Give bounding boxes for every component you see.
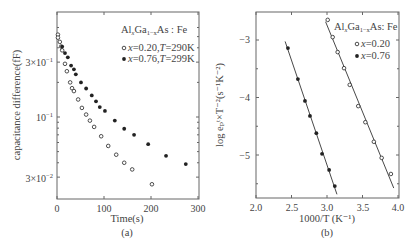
y-tick-label: 3×10−2 — [25, 172, 53, 184]
x-tick-label: 200 — [144, 203, 159, 214]
plot-frame-a — [57, 12, 199, 199]
open-circle-marker-icon — [65, 69, 69, 73]
legend-open-circle-icon — [355, 42, 359, 46]
panel-b: 2.0 2.5 3.0 3.5 4.0 −3 −4 −5 1000/T (K⁻¹… — [214, 12, 404, 239]
y-tick-labels-b: −3 −4 −5 — [239, 34, 250, 161]
open-circle-marker-icon — [331, 35, 335, 39]
legend-title-a: AlxGa1−xAs : Fe — [121, 24, 187, 36]
x-tick-label: 3.0 — [321, 202, 334, 213]
open-circle-marker-icon — [348, 83, 352, 87]
open-circle-marker-icon — [336, 50, 340, 54]
x-tick-labels-b: 2.0 2.5 3.0 3.5 4.0 — [250, 202, 405, 213]
filled-circle-marker-icon — [94, 99, 98, 103]
open-circle-marker-icon — [114, 153, 118, 157]
open-circle-marker-icon — [88, 119, 92, 123]
axis-ticks-a — [57, 12, 199, 199]
filled-circle-marker-icon — [296, 77, 300, 81]
legend-a: AlxGa1−xAs : Fe x=0.20,T=290K x=0.76,T=2… — [121, 24, 195, 64]
open-circle-marker-icon — [92, 125, 96, 129]
open-circle-marker-icon — [68, 81, 72, 85]
y-axis-label-a: capacitance difference(fF) — [11, 49, 23, 160]
filled-circle-marker-icon — [122, 127, 126, 131]
x-tick-label: 4.0 — [392, 202, 405, 213]
open-circle-marker-icon — [58, 40, 62, 44]
x-tick-label: 2.5 — [286, 202, 299, 213]
legend-entry-a-1: x=0.76,T=299K — [127, 53, 195, 64]
open-circle-marker-icon — [389, 172, 393, 176]
filled-circle-marker-icon — [327, 168, 331, 172]
figure: 0 100 200 300 3×10−1 10−1 3×10−2 Time(s)… — [0, 0, 412, 246]
open-circle-marker-icon — [342, 66, 346, 70]
open-circle-marker-icon — [130, 168, 134, 172]
open-circle-marker-icon — [372, 140, 376, 144]
open-circle-marker-icon — [380, 156, 384, 160]
legend-entry-a-0: x=0.20,T=290K — [127, 42, 195, 53]
open-circle-marker-icon — [72, 89, 76, 93]
filled-circle-marker-icon — [184, 162, 188, 166]
open-circle-marker-icon — [80, 106, 84, 110]
y-tick-label: −3 — [239, 34, 250, 45]
open-circle-marker-icon — [63, 62, 67, 66]
y-tick-labels-a: 3×10−1 10−1 3×10−2 — [25, 56, 53, 184]
panel-a: 0 100 200 300 3×10−1 10−1 3×10−2 Time(s)… — [11, 12, 206, 239]
open-circle-marker-icon — [364, 120, 368, 124]
x-tick-label: 300 — [191, 203, 206, 214]
x-tick-label: 2.0 — [250, 202, 263, 213]
y-tick-label: 3×10−1 — [25, 56, 53, 68]
filled-circle-marker-icon — [113, 119, 117, 123]
filled-circle-marker-icon — [286, 46, 290, 50]
panel-caption-b: (b) — [321, 227, 334, 239]
legend-entry-b-1: x=0.76 — [360, 50, 390, 61]
x-tick-label: 100 — [97, 203, 112, 214]
y-tick-label: −4 — [239, 92, 250, 103]
filled-circle-marker-icon — [320, 152, 324, 156]
filled-circle-marker-icon — [146, 142, 150, 146]
filled-circle-marker-icon — [314, 131, 318, 135]
open-circle-marker-icon — [106, 144, 110, 148]
x-tick-label: 3.5 — [357, 202, 370, 213]
filled-circle-marker-icon — [69, 64, 73, 68]
open-circle-marker-icon — [326, 18, 330, 22]
panel-caption-a: (a) — [121, 227, 133, 239]
open-circle-marker-icon — [76, 98, 80, 102]
filled-circle-marker-icon — [74, 72, 78, 76]
open-circle-marker-icon — [56, 36, 60, 40]
y-tick-label: 10−1 — [36, 111, 53, 123]
legend-open-circle-icon — [122, 46, 126, 50]
filled-circle-marker-icon — [60, 45, 64, 49]
filled-circle-marker-icon — [84, 87, 88, 91]
x-tick-label: 0 — [55, 203, 60, 214]
filled-circle-marker-icon — [164, 154, 168, 158]
filled-circle-marker-icon — [63, 51, 67, 55]
open-circle-marker-icon — [122, 161, 126, 165]
open-circle-marker-icon — [84, 113, 88, 117]
legend-b: AlxGa1−xAs: Fe x=0.20 x=0.76 — [334, 21, 398, 61]
filled-circle-marker-icon — [66, 55, 70, 59]
x-axis-label-a: Time(s) — [111, 213, 144, 225]
y-axis-label-b: log eₚᵗ×T⁻²(s⁻¹K⁻²) — [214, 63, 226, 147]
filled-circle-marker-icon — [79, 80, 83, 84]
open-circle-marker-icon — [356, 104, 360, 108]
legend-title-b: AlxGa1−xAs: Fe — [334, 21, 398, 33]
open-circle-marker-icon — [150, 182, 154, 186]
legend-filled-circle-icon — [122, 57, 126, 61]
legend-filled-circle-icon — [355, 54, 359, 58]
legend-entry-b-0: x=0.20 — [360, 38, 390, 49]
x-axis-label-b: 1000/T (K⁻¹) — [299, 213, 356, 225]
open-circle-marker-icon — [99, 134, 103, 138]
filled-circle-marker-icon — [98, 105, 102, 109]
open-circle-marker-icon — [60, 49, 64, 53]
filled-circle-marker-icon — [90, 94, 94, 98]
filled-circle-marker-icon — [308, 114, 312, 118]
filled-circle-marker-icon — [72, 67, 76, 71]
filled-circle-marker-icon — [333, 184, 337, 188]
filled-circle-marker-icon — [103, 109, 107, 113]
filled-circle-marker-icon — [303, 99, 307, 103]
y-tick-label: −5 — [239, 150, 250, 161]
filled-circle-marker-icon — [132, 133, 136, 137]
